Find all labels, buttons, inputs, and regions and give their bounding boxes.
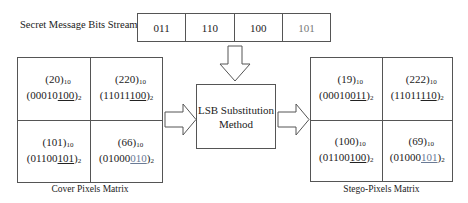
lsb-bits: 110 bbox=[421, 89, 437, 101]
pixel-cell: (100)10 (01100100)2 bbox=[311, 120, 382, 182]
pixel-cell: (66)10 (01000010)2 bbox=[90, 120, 162, 182]
pixel-cell: (101)10 (01100101)2 bbox=[18, 120, 90, 182]
pixel-cell: (69)10 (01000101)2 bbox=[382, 120, 453, 182]
pixel-cell: (19)10 (00010011)2 bbox=[311, 58, 382, 120]
pixel-cell: (220)10 (11011100)2 bbox=[90, 58, 162, 120]
stego-matrix-caption: Stego-Pixels Matrix bbox=[310, 184, 453, 194]
lsb-method-box: LSB Substitution Method bbox=[196, 84, 276, 149]
arrow-down-icon bbox=[219, 46, 251, 82]
arrow-right-icon bbox=[278, 104, 310, 136]
bits-stream: 011 110 100 101 bbox=[137, 13, 331, 42]
pixel-cell: (222)10 (11011110)2 bbox=[382, 58, 453, 120]
lsb-bits: 100 bbox=[130, 89, 147, 101]
lsb-bits: 101 bbox=[58, 152, 75, 164]
lsb-bits: 010 bbox=[130, 152, 147, 164]
bits-stream-label: Secret Message Bits Stream bbox=[20, 19, 138, 30]
lsb-bits: 011 bbox=[350, 89, 366, 101]
cover-matrix-caption: Cover Pixels Matrix bbox=[17, 184, 163, 194]
method-line-2: Method bbox=[198, 117, 274, 131]
bits-chunk: 101 bbox=[282, 14, 330, 41]
lsb-bits: 101 bbox=[421, 151, 438, 163]
lsb-bits: 100 bbox=[58, 89, 75, 101]
bits-chunk: 110 bbox=[185, 14, 233, 41]
cover-pixels-matrix: (20)10 (00010100)2 (220)10 (11011100)2 (… bbox=[17, 57, 163, 183]
method-line-1: LSB Substitution bbox=[198, 103, 274, 117]
stego-pixels-matrix: (19)10 (00010011)2 (222)10 (11011110)2 (… bbox=[310, 57, 453, 182]
arrow-right-icon bbox=[165, 104, 197, 136]
lsb-bits: 100 bbox=[350, 151, 367, 163]
bits-chunk: 011 bbox=[138, 14, 185, 41]
bits-chunk: 100 bbox=[234, 14, 282, 41]
pixel-cell: (20)10 (00010100)2 bbox=[18, 58, 90, 120]
